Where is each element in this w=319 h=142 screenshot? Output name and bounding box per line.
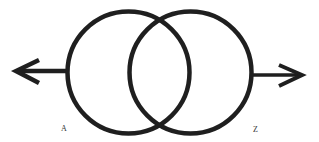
label-z: Z [253, 125, 258, 134]
diagram-canvas: A Z [0, 0, 319, 142]
left-arrow-icon [16, 60, 67, 83]
right-arrow-icon [252, 65, 302, 86]
label-a: A [61, 124, 67, 133]
venn-diagram: A Z [0, 0, 319, 142]
